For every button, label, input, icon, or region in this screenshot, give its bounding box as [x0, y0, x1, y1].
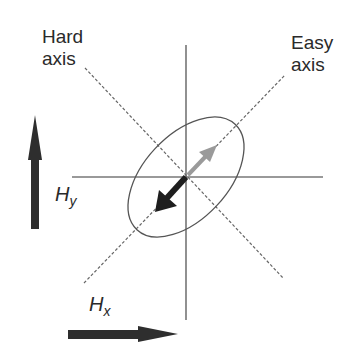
hard-axis-label-line2: axis: [42, 48, 83, 70]
hy-label-sub: y: [69, 193, 76, 209]
hy-label-main: H: [55, 183, 69, 205]
easy-axis-label-line2: axis: [291, 54, 333, 76]
hard-axis-line: [85, 68, 284, 279]
easy-axis-label: Easy axis: [291, 32, 333, 76]
hx-label: Hx: [89, 293, 110, 319]
hard-axis-label: Hard axis: [42, 26, 83, 70]
hx-label-sub: x: [103, 303, 110, 319]
hard-axis-label-line1: Hard: [42, 26, 83, 48]
hy-label: Hy: [55, 183, 76, 209]
field-arrow-hx: [68, 326, 178, 342]
field-arrow-hy: [28, 115, 42, 229]
magnetization-arrow-light: [188, 145, 217, 175]
hx-label-main: H: [89, 293, 103, 315]
magnetization-arrow-dark: [155, 177, 186, 212]
easy-axis-label-line1: Easy: [291, 32, 333, 54]
diagram-canvas: Hard axis Easy axis Hy Hx: [0, 0, 354, 363]
